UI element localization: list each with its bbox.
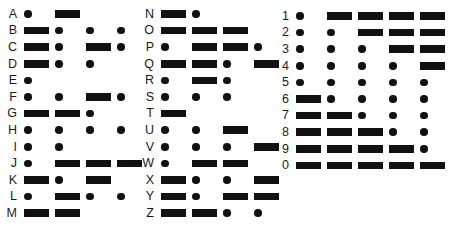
morse-dash-icon — [327, 12, 352, 20]
morse-symbol-slot — [55, 10, 86, 18]
morse-dot-icon — [86, 27, 94, 35]
morse-character-label: D — [0, 58, 17, 71]
morse-dot-icon — [161, 126, 169, 134]
morse-dot-icon — [24, 160, 32, 168]
morse-dot-icon — [358, 112, 366, 120]
morse-dash-icon — [420, 12, 445, 20]
morse-row: B — [0, 23, 148, 39]
morse-character-label: N — [137, 8, 154, 21]
morse-dot-icon — [358, 95, 366, 103]
morse-symbol-slot — [296, 128, 327, 136]
morse-dot-icon — [358, 62, 366, 70]
morse-symbol-slot — [223, 27, 254, 35]
morse-dot-icon — [223, 77, 231, 85]
morse-symbol-slot — [223, 93, 254, 101]
morse-dot-icon — [327, 45, 335, 53]
morse-symbol-slot — [161, 27, 192, 35]
morse-dash-icon — [389, 45, 414, 53]
morse-dot-icon — [420, 95, 428, 103]
morse-symbol-slot — [296, 79, 327, 87]
morse-symbol-slot — [327, 112, 358, 120]
morse-row: S — [137, 89, 254, 105]
morse-dot-icon — [161, 77, 169, 85]
morse-symbol-slot — [358, 29, 389, 37]
morse-dot-icon — [420, 79, 428, 87]
morse-dash-icon — [86, 43, 111, 51]
morse-symbol-slot — [358, 112, 389, 120]
morse-row: C — [0, 39, 148, 55]
morse-dot-icon — [117, 27, 125, 35]
morse-symbol-slot — [420, 12, 451, 20]
morse-dot-icon — [254, 43, 262, 51]
morse-dot-icon — [223, 60, 231, 68]
morse-symbol-slot — [55, 193, 86, 201]
morse-symbol-slot — [192, 93, 223, 101]
morse-symbol-slot — [161, 77, 192, 85]
morse-dot-icon — [223, 176, 231, 184]
morse-dash-icon — [192, 209, 217, 217]
morse-dash-icon — [254, 176, 279, 184]
morse-code-sequence — [296, 145, 451, 153]
morse-code-sequence — [161, 176, 285, 184]
morse-symbol-slot — [327, 29, 358, 37]
morse-row: 3 — [272, 41, 451, 57]
morse-symbol-slot — [55, 160, 86, 168]
morse-dash-icon — [358, 29, 383, 37]
morse-dash-icon — [420, 29, 445, 37]
morse-symbol-slot — [161, 110, 192, 118]
morse-row: 1 — [272, 8, 451, 24]
morse-symbol-slot — [420, 162, 451, 170]
morse-code-sequence — [24, 209, 86, 217]
morse-code-sequence — [161, 43, 285, 51]
morse-symbol-slot — [86, 93, 117, 101]
morse-row: 5 — [272, 74, 451, 90]
morse-row: F — [0, 89, 148, 105]
morse-symbol-slot — [389, 45, 420, 53]
morse-character-label: H — [0, 124, 17, 137]
morse-symbol-slot — [55, 176, 86, 184]
morse-dot-icon — [24, 77, 32, 85]
morse-symbol-slot — [192, 193, 223, 201]
morse-symbol-slot — [192, 77, 223, 85]
morse-dash-icon — [192, 160, 217, 168]
morse-dash-icon — [327, 112, 352, 120]
morse-dot-icon — [296, 62, 304, 70]
morse-dash-icon — [420, 162, 445, 170]
morse-dot-icon — [192, 126, 200, 134]
morse-dash-icon — [55, 110, 80, 118]
morse-dash-icon — [358, 162, 383, 170]
morse-row: 7 — [272, 108, 451, 124]
morse-row: 9 — [272, 141, 451, 157]
morse-dash-icon — [161, 60, 186, 68]
morse-symbol-slot — [358, 145, 389, 153]
morse-dash-icon — [327, 128, 352, 136]
morse-code-sequence — [161, 160, 254, 168]
morse-symbol-slot — [24, 126, 55, 134]
morse-symbol-slot — [389, 12, 420, 20]
morse-dash-icon — [161, 27, 186, 35]
morse-symbol-slot — [161, 126, 192, 134]
morse-dot-icon — [327, 79, 335, 87]
morse-symbol-slot — [24, 43, 55, 51]
morse-dash-icon — [24, 60, 49, 68]
morse-symbol-slot — [24, 93, 55, 101]
morse-dot-icon — [327, 29, 335, 37]
morse-dash-icon — [223, 193, 248, 201]
morse-symbol-slot — [254, 193, 285, 201]
morse-dot-icon — [296, 12, 304, 20]
morse-symbol-slot — [327, 62, 358, 70]
morse-dash-icon — [389, 145, 414, 153]
morse-code-sequence — [24, 10, 86, 18]
morse-symbol-slot — [55, 60, 86, 68]
morse-symbol-slot — [254, 209, 285, 217]
morse-dash-icon — [161, 193, 186, 201]
morse-dash-icon — [420, 45, 445, 53]
morse-dot-icon — [223, 209, 231, 217]
morse-symbol-slot — [223, 209, 254, 217]
morse-dash-icon — [86, 176, 111, 184]
morse-dot-icon — [86, 126, 94, 134]
morse-dash-icon — [24, 209, 49, 217]
morse-dot-icon — [327, 62, 335, 70]
morse-symbol-slot — [358, 79, 389, 87]
morse-row: P — [137, 39, 285, 55]
